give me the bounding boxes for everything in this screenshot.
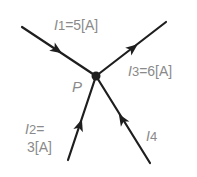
label-node-p-text: P (72, 78, 82, 95)
label-i4: I4 (146, 129, 157, 143)
label-i2-line2: 3[A] (27, 140, 52, 154)
label-i4-sub: 4 (150, 129, 157, 144)
label-i2-eq: = (36, 121, 44, 137)
label-i1-value: =5[A] (65, 17, 98, 33)
label-node-p: P (72, 79, 82, 94)
label-i2-line1: I2= (25, 122, 44, 136)
label-i1: I1=5[A] (54, 18, 98, 32)
arrow-i1-icon (49, 43, 65, 58)
label-i3-value: =6[A] (139, 63, 172, 79)
label-i2-value: 3[A] (27, 139, 52, 155)
arrow-i2-icon (73, 118, 86, 133)
label-i3: I3=6[A] (128, 64, 172, 78)
node-p (92, 72, 101, 81)
